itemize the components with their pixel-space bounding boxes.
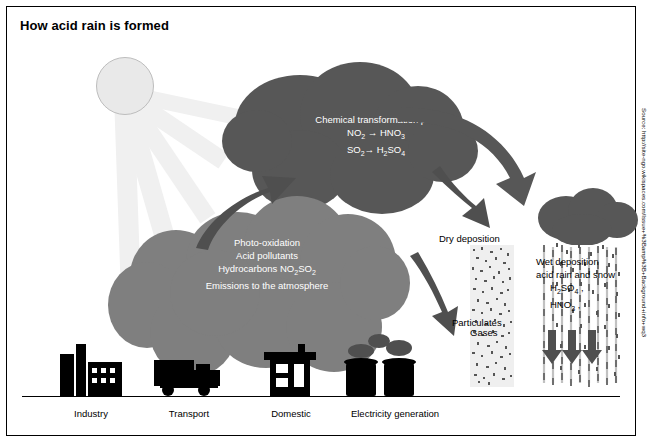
particulate-speckles <box>470 245 514 387</box>
caption-transport: Transport <box>148 408 230 419</box>
industry-icon <box>60 344 122 396</box>
no2-hno3-equation: NO2 → HNO3 <box>296 126 456 143</box>
hydrocarbons-label: Hydrocarbons NO2SO2 <box>122 262 412 279</box>
domestic-icon <box>264 344 316 396</box>
chem-transform-label: Chemical transformation pan <box>296 113 456 126</box>
caption-electricity-generation: Electricity generation <box>330 408 460 419</box>
caption-industry: Industry <box>52 408 130 419</box>
upper-cloud-text: Chemical transformation pan NO2 → HNO3 S… <box>296 113 456 160</box>
hno3-formula: HNO3 , <box>536 298 615 315</box>
emissions-label: Emissions to the atmosphere <box>122 279 412 292</box>
cloud-blob <box>552 214 612 246</box>
page-title: How acid rain is formed <box>20 18 169 33</box>
so2-h2so4-equation: SO2→ H2SO4 <box>296 143 456 160</box>
transport-icon <box>154 356 224 396</box>
diagram-canvas: How acid rain is formed Source: http://s… <box>0 0 670 444</box>
wet-deposition-line2: acid rain and snow <box>536 268 615 281</box>
wet-deposition-label: Wet deposition acid rain and snow H2SO4 … <box>536 255 615 315</box>
gases-label: Gases <box>470 327 497 338</box>
lower-cloud-text: Photo-oxidation Acid pollutants Hydrocar… <box>122 236 412 292</box>
particulates-panel <box>470 245 514 387</box>
acid-pollutants-label: Acid pollutants <box>122 249 412 262</box>
photo-oxidation-label: Photo-oxidation <box>122 236 412 249</box>
sun-icon <box>96 57 154 115</box>
ground-line <box>22 396 620 397</box>
dry-deposition-label: Dry deposition <box>439 233 500 244</box>
h2so4-formula: H2SO4 , <box>536 281 615 298</box>
electricity-generation-icon <box>344 334 420 396</box>
caption-domestic: Domestic <box>252 408 330 419</box>
wet-deposition-line1: Wet deposition <box>536 255 615 268</box>
cloud-blob <box>222 110 292 172</box>
source-credit: Source: http://site-ngo.wikispaces.com/I… <box>641 108 648 348</box>
